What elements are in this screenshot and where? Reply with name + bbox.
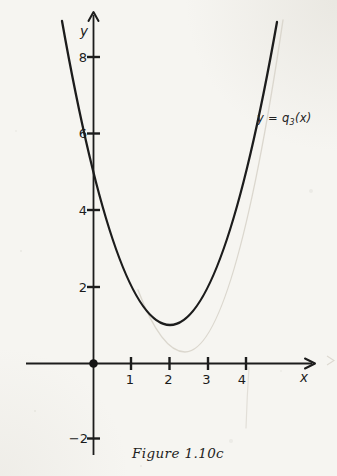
curve-equation-pre: y = q [257, 111, 290, 125]
y-axis-label: y [79, 23, 89, 39]
bleedthrough-line [246, 367, 249, 428]
x-tick-label-1: 1 [126, 372, 134, 387]
origin-point [89, 359, 98, 368]
curve-equation-label: y = q3(x) [257, 111, 312, 127]
figure-page: 8 6 4 2 −2 1 2 3 4 y x y = q3(x) Figure … [0, 0, 337, 476]
bleedthrough-curve [138, 20, 283, 352]
figure-caption: Figure 1.10c [98, 445, 258, 461]
bleedthrough-arrow-mark [327, 356, 334, 365]
curve-equation-post: (x) [295, 111, 312, 125]
function-plot: 8 6 4 2 −2 1 2 3 4 y x [0, 0, 337, 476]
y-tick-label-2: 2 [79, 280, 87, 295]
y-tick-label-neg2: −2 [69, 431, 88, 446]
x-axis-label: x [299, 369, 309, 385]
x-tick-label-3: 3 [202, 372, 210, 387]
x-tick-label-2: 2 [164, 372, 172, 387]
x-tick-label-4: 4 [238, 372, 246, 387]
y-tick-label-8: 8 [79, 50, 87, 65]
y-tick-label-6: 6 [79, 126, 87, 141]
y-tick-label-4: 4 [79, 203, 87, 218]
